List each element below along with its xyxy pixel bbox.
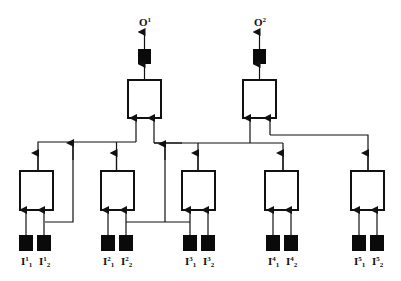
input-label-i2-2: I22 — [121, 256, 132, 269]
output-label-o2: O2 — [254, 17, 266, 28]
input-label-i1-1: I11 — [21, 256, 32, 269]
bottom-module-1 — [20, 171, 53, 210]
input-node-i2-2 — [119, 235, 133, 251]
input-label-i3-2: I32 — [203, 256, 214, 269]
input-node-i1-2 — [37, 235, 51, 251]
output-label-o1: O1 — [139, 17, 151, 28]
input-label-i5-1: I51 — [354, 256, 365, 269]
input-node-i3-2 — [201, 235, 215, 251]
bus-left — [38, 142, 136, 171]
input-label-i4-2: I42 — [286, 256, 297, 269]
top-module-1 — [128, 80, 161, 118]
input-node-i5-1 — [352, 235, 366, 251]
bus-right — [270, 135, 368, 171]
bottom-module-5 — [351, 171, 384, 210]
input-node-i4-2 — [284, 235, 298, 251]
input-label-i4-1: I41 — [268, 256, 279, 269]
input-node-i4-1 — [266, 235, 280, 251]
input-node-i2-1 — [101, 235, 115, 251]
o2-output-node — [253, 49, 266, 64]
input-node-i3-1 — [183, 235, 197, 251]
bottom-module-4 — [265, 171, 298, 210]
input-label-i3-1: I31 — [185, 256, 196, 269]
o1-output-node — [138, 49, 151, 64]
bottom-module-3 — [182, 171, 215, 210]
input-label-i1-2: I12 — [39, 256, 50, 269]
input-label-i2-1: I21 — [103, 256, 114, 269]
top-module-2 — [243, 80, 276, 118]
input-node-i5-2 — [370, 235, 384, 251]
bottom-module-2 — [101, 171, 134, 210]
network-diagram — [0, 0, 401, 281]
input-node-i1-1 — [19, 235, 33, 251]
input-label-i5-2: I52 — [372, 256, 383, 269]
